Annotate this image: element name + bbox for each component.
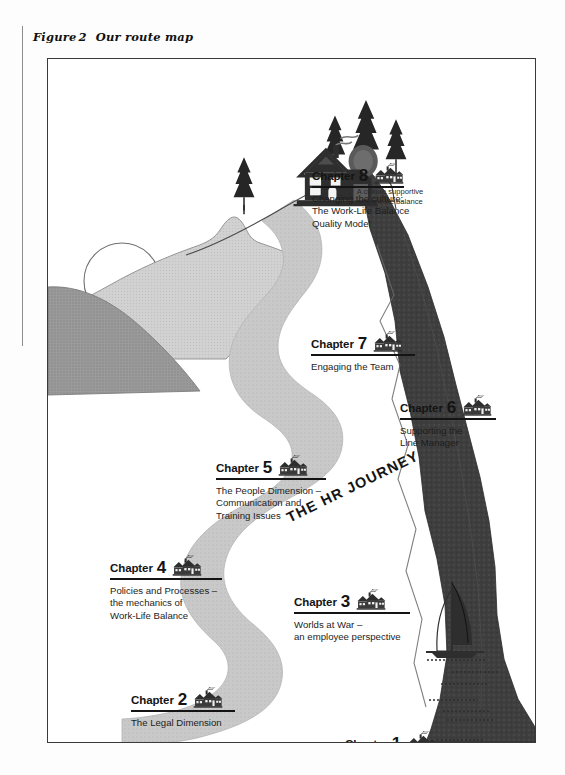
chapter-description: Supporting the Line Manager [400, 425, 496, 450]
figure-frame: A culture supportive of work-life balanc… [47, 58, 536, 743]
chapter-marker-6[interactable]: Chapter 6 [400, 395, 496, 450]
chapter-heading: Chapter 6 [400, 395, 496, 415]
chapter-rule [110, 578, 222, 580]
house-icon [462, 395, 492, 417]
chapter-heading: Chapter 1 [345, 731, 442, 743]
chapter-marker-1[interactable]: Chapter 1 [345, 731, 442, 743]
house-icon [278, 455, 308, 477]
house-icon [407, 731, 437, 743]
chapter-number: 6 [447, 400, 456, 415]
chapter-number: 4 [157, 560, 166, 575]
chapter-word: Chapter [216, 462, 259, 475]
chapter-marker-8[interactable]: Chapter 8 [312, 163, 409, 230]
chapter-number: 5 [263, 460, 272, 475]
chapter-word: Chapter [311, 338, 354, 351]
page-margin-rule [22, 26, 23, 346]
chapter-word: Chapter [294, 596, 337, 609]
conifer-tree-icon [234, 157, 255, 214]
chapter-word: Chapter [400, 402, 443, 415]
chapter-heading: Chapter 2 [131, 687, 235, 707]
chapter-heading: Chapter 7 [311, 331, 415, 351]
chapter-rule [131, 710, 235, 712]
chapter-description: The Legal Dimension [131, 717, 235, 729]
chapter-marker-3[interactable]: Chapter 3 [294, 589, 410, 644]
chapter-heading: Chapter 4 [110, 555, 222, 575]
figure-title: Our route map [96, 30, 193, 44]
figure-page: Figure2Our route map [0, 0, 565, 775]
figure-number: 2 [79, 30, 87, 44]
chapter-marker-5[interactable]: Chapter 5 [216, 455, 326, 522]
chapter-description: Worlds at War – an employee perspective [294, 619, 410, 644]
chapter-rule [400, 418, 496, 420]
chapter-word: Chapter [131, 694, 174, 707]
chapter-number: 8 [359, 168, 368, 183]
chapter-marker-2[interactable]: Chapter 2 [131, 687, 235, 729]
figure-label: Figure [33, 30, 77, 44]
chapter-word: Chapter [312, 170, 355, 183]
chapter-rule [216, 478, 326, 480]
chapter-marker-4[interactable]: Chapter 4 [110, 555, 222, 622]
house-icon [374, 163, 404, 185]
house-icon [193, 687, 223, 709]
chapter-number: 7 [358, 336, 367, 351]
chapter-marker-7[interactable]: Chapter 7 [311, 331, 415, 373]
chapter-number: 3 [341, 594, 350, 609]
chapter-word: Chapter [345, 738, 388, 743]
house-icon [356, 589, 386, 611]
chapter-rule [294, 612, 410, 614]
chapter-description: Changing the culture: The Work-Life Bala… [312, 193, 409, 230]
chapter-rule [312, 186, 404, 188]
chapter-heading: Chapter 3 [294, 589, 410, 609]
chapter-rule [311, 354, 415, 356]
chapter-description: The People Dimension – Communication and… [216, 485, 326, 522]
chapter-number: 2 [178, 692, 187, 707]
chapter-heading: Chapter 8 [312, 163, 409, 183]
house-icon [373, 331, 403, 353]
chapter-description: Policies and Processes – the mechanics o… [110, 585, 222, 622]
chapter-heading: Chapter 5 [216, 455, 326, 475]
chapter-word: Chapter [110, 562, 153, 575]
house-icon [172, 555, 202, 577]
chapter-description: Engaging the Team [311, 361, 415, 373]
chapter-number: 1 [392, 736, 401, 743]
figure-caption: Figure2Our route map [33, 30, 193, 44]
